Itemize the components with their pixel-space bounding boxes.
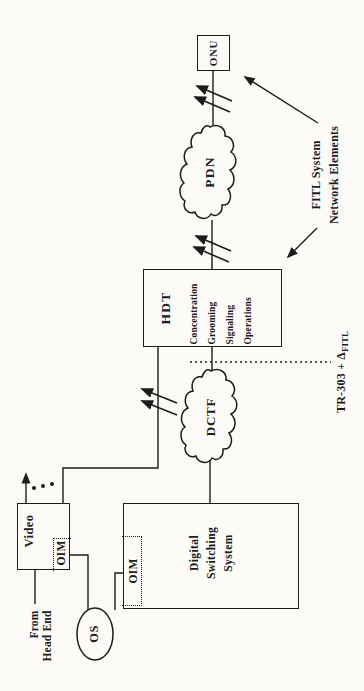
fitl-architecture-diagram: ONU PDN DCTF HDT Concentration Grooming … bbox=[0, 0, 364, 691]
link-video-oim-os bbox=[70, 555, 88, 612]
from-head-end-line: From bbox=[28, 610, 41, 661]
pdn-label: PDN bbox=[203, 156, 218, 187]
slash-arrow bbox=[196, 236, 231, 251]
ellipsis-dots bbox=[32, 482, 54, 490]
hdt-function-item: Operations bbox=[239, 283, 257, 344]
onu-label: ONU bbox=[207, 40, 219, 66]
tr303-subscript: FITL bbox=[340, 331, 350, 352]
from-head-end-label: From Head End bbox=[28, 610, 54, 661]
arrow-to-hdt bbox=[288, 228, 317, 257]
tr303-interface-label: TR-303 + ΔFITL bbox=[335, 331, 351, 413]
slash-arrow bbox=[142, 401, 177, 415]
fitl-system-callout: FITL System Network Elements bbox=[307, 126, 343, 224]
link-video-hdt bbox=[63, 347, 158, 503]
fitl-callout-line: FITL System bbox=[307, 126, 325, 224]
dss-label-line: Digital bbox=[186, 527, 203, 579]
hdt-function-item: Grooming bbox=[203, 283, 221, 344]
hdt-function-item: Concentration bbox=[185, 283, 203, 344]
tr303-main: TR-303 + Δ bbox=[334, 352, 348, 413]
dctf-label: DCTF bbox=[204, 398, 218, 437]
video-label: Video bbox=[23, 515, 37, 548]
dss-label-line: Switching bbox=[203, 527, 220, 579]
hdt-function-item: Signaling bbox=[221, 283, 239, 344]
hdt-label: HDT bbox=[159, 292, 174, 325]
dss-oim-label: OIM bbox=[127, 559, 140, 584]
slash-arrow bbox=[142, 389, 177, 403]
os-label: OS bbox=[88, 625, 102, 643]
dss-label: Digital Switching System bbox=[186, 527, 237, 579]
dss-label-line: System bbox=[220, 527, 237, 579]
fitl-callout-line: Network Elements bbox=[325, 126, 343, 224]
slash-arrow bbox=[197, 86, 232, 101]
from-head-end-line: Head End bbox=[41, 610, 54, 661]
arrow-to-onu bbox=[245, 77, 318, 123]
video-oim-label: OIM bbox=[55, 541, 68, 566]
hdt-functions-list: Concentration Grooming Signaling Operati… bbox=[185, 283, 257, 344]
